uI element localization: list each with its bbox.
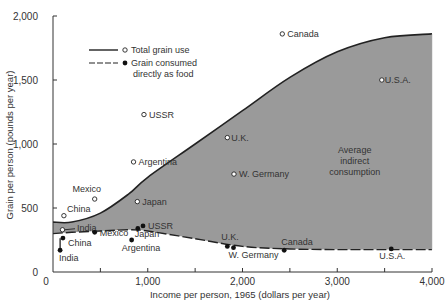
y-axis-title: Grain per person (pounds per year) [4,71,15,220]
annotation-text: consumption [329,167,380,177]
total-grain-point [142,112,146,116]
country-label: Mexico [72,184,101,194]
country-label: W. Germany [228,250,279,260]
legend-label: Total grain use [131,45,190,55]
total-grain-point [60,228,64,232]
direct-food-point [129,238,134,243]
y-tick-label: 1,000 [13,139,38,150]
country-label: Canada [287,29,319,39]
x-tick-label: 3,000 [325,276,350,287]
country-label: Argentina [122,243,161,253]
y-tick-label: 500 [21,203,38,214]
legend-open-marker [123,48,127,52]
x-tick-label: 0 [43,276,49,287]
y-tick-label: 1,500 [13,75,38,86]
country-label: Argentina [139,157,178,167]
legend-label: Grain consumed [131,58,197,68]
x-tick-label: 4,000 [419,276,444,287]
country-label: U.K. [221,232,239,242]
total-grain-point [62,213,66,217]
country-label: Japan [142,197,167,207]
x-axis-title: Income per person, 1965 (dollars per yea… [150,289,330,300]
legend-filled-marker [123,61,128,66]
country-label: W. Germany [239,169,290,179]
total-grain-point [131,160,135,164]
country-label: U.K. [231,133,249,143]
country-label: USSR [148,221,174,231]
total-grain-point [135,199,139,203]
country-label: China [67,204,91,214]
direct-food-point [92,230,97,235]
country-label: Japan [135,229,160,239]
x-tick-label: 2,000 [230,276,255,287]
x-tick-label: 1,000 [135,276,160,287]
country-label: U.S.A. [379,251,405,261]
annotation-text: indirect [340,156,370,166]
legend: Total grain useGrain consumeddirectly as… [89,45,197,79]
direct-food-point [61,236,66,241]
y-tick-label: 0 [32,267,38,278]
country-label: Canada [281,237,313,247]
country-label: USSR [149,110,175,120]
direct-food-point [141,224,146,229]
y-tick-label: 2,000 [13,11,38,22]
total-grain-point [380,78,384,82]
total-grain-point [280,32,284,36]
direct-food-point [225,244,230,249]
country-label: China [68,238,92,248]
legend-label: directly as food [133,69,194,79]
direct-food-point [282,248,287,253]
annotation-text: Average [338,145,371,155]
grain-consumption-chart: 05001,0001,5002,00001,0002,0003,0004,000… [0,0,447,304]
total-grain-point [92,197,96,201]
total-grain-point [232,172,236,176]
country-label: Mexico [100,228,129,238]
country-label: India [59,253,79,263]
total-grain-point [225,135,229,139]
country-label: U.S.A. [385,75,411,85]
